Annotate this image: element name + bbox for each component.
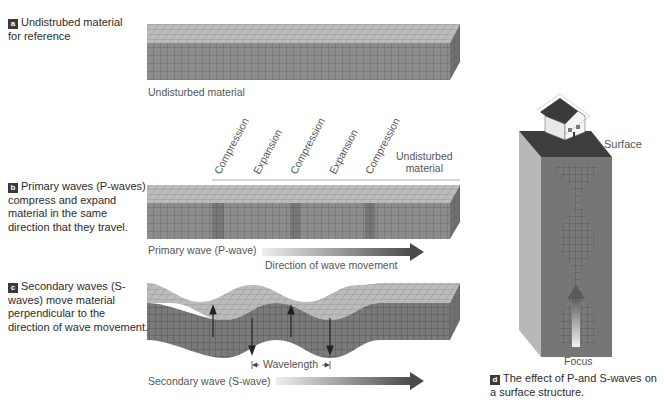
undisturbed-material-label: Undisturbed material xyxy=(148,86,245,98)
panel-a-caption: aUndistrubed material for reference xyxy=(8,16,138,43)
panel-b-caption-text: Primary waves (P-waves) compress and exp… xyxy=(8,180,146,233)
panel-c-caption-text: Secondary waves (S-waves) move material … xyxy=(8,280,148,333)
surface-label: Surface xyxy=(604,138,642,150)
undisturbed-material-label-b: Undisturbed material xyxy=(396,150,453,174)
panel-b-badge: b xyxy=(8,183,18,193)
secondary-wave-label: Secondary wave (S-wave) xyxy=(148,375,271,387)
panel-c-caption: cSecondary waves (S-waves) move material… xyxy=(8,280,148,334)
direction-of-wave-movement-label: Direction of wave movement xyxy=(265,259,397,271)
panel-a-badge: a xyxy=(8,19,18,29)
s-wave-direction-arrow xyxy=(276,372,424,390)
undisturbed-line1: Undisturbed xyxy=(396,150,453,162)
panel-d-badge: d xyxy=(490,375,500,385)
undisturbed-line2: material xyxy=(396,162,453,174)
wavelength-label: Wavelength xyxy=(263,358,318,370)
primary-wave-label: Primary wave (P-wave) xyxy=(148,244,257,256)
earth-column xyxy=(519,131,612,357)
p-wave-block xyxy=(147,180,460,239)
panel-b-caption: bPrimary waves (P-waves) compress and ex… xyxy=(8,180,148,234)
undisturbed-block xyxy=(147,24,460,80)
panel-a-caption-text: Undistrubed material for reference xyxy=(8,16,123,42)
panel-d-caption: dThe effect of P-and S-waves on a surfac… xyxy=(490,372,664,399)
focus-label: Focus xyxy=(564,355,593,367)
s-wave-block xyxy=(147,283,460,369)
panel-d-caption-text: The effect of P-and S-waves on a surface… xyxy=(490,372,657,398)
panel-c-badge: c xyxy=(8,283,18,293)
